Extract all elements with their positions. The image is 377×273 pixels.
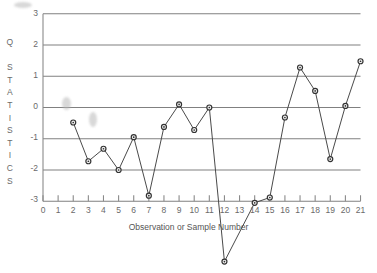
x-tick-label: 15: [262, 205, 278, 215]
data-point-center: [329, 158, 331, 160]
q-statistics-control-chart: Q STATISTICS 3 2 1 0 -1 -2 -3 0123456789…: [0, 0, 377, 273]
gridlines: [43, 14, 361, 202]
x-tick-label: 0: [35, 205, 51, 215]
data-point-center: [163, 126, 165, 128]
x-tick-label: 21: [353, 205, 369, 215]
x-tick-label: 10: [186, 205, 202, 215]
x-tick-label: 6: [126, 205, 142, 215]
x-tick-label: 18: [307, 205, 323, 215]
data-point-center: [345, 105, 347, 107]
x-tick-label: 13: [232, 205, 248, 215]
x-tick-label: 2: [65, 205, 81, 215]
data-markers: [71, 59, 363, 264]
data-point-center: [118, 169, 120, 171]
data-point-center: [314, 90, 316, 92]
x-tick-label: 8: [156, 205, 172, 215]
data-point-center: [133, 136, 135, 138]
data-point-center: [269, 197, 271, 199]
data-point-center: [193, 129, 195, 131]
x-tick-label: 17: [292, 205, 308, 215]
x-tick-label: 9: [171, 205, 187, 215]
x-tick-label: 1: [50, 205, 66, 215]
data-point-center: [284, 117, 286, 119]
data-point-center: [178, 104, 180, 106]
data-point-center: [208, 107, 210, 109]
data-point-center: [72, 122, 74, 124]
data-point-center: [88, 160, 90, 162]
x-tick-label: 19: [322, 205, 338, 215]
data-point-center: [224, 261, 226, 263]
x-tick-label: 11: [201, 205, 217, 215]
data-point-center: [254, 202, 256, 204]
x-tick-label: 12: [216, 205, 232, 215]
x-tick-label: 4: [95, 205, 111, 215]
data-point-center: [103, 148, 105, 150]
x-axis-title: Observation or Sample Number: [0, 222, 377, 232]
x-tick-label: 20: [337, 205, 353, 215]
plot-area: [0, 0, 377, 273]
x-tick-label: 5: [111, 205, 127, 215]
data-point-center: [299, 67, 301, 69]
x-tick-label: 7: [141, 205, 157, 215]
x-tick-label: 14: [247, 205, 263, 215]
data-point-center: [360, 60, 362, 62]
x-tick-label: 16: [277, 205, 293, 215]
data-point-center: [148, 195, 150, 197]
x-axis-ticks: [43, 195, 361, 201]
x-tick-label: 3: [80, 205, 96, 215]
